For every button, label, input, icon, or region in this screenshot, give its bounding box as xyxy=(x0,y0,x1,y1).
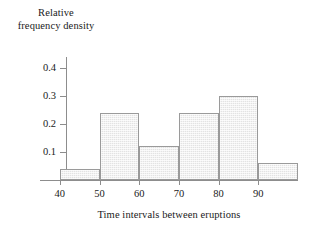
histogram-bar xyxy=(179,113,219,180)
histogram-bars xyxy=(0,0,309,238)
histogram-figure: Relative frequency density 0.10.20.30.4 … xyxy=(0,0,309,238)
x-axis-title: Time intervals between eruptions xyxy=(40,208,298,221)
histogram-bar xyxy=(100,113,140,180)
histogram-bar xyxy=(219,96,259,180)
histogram-bar xyxy=(258,163,298,180)
histogram-bar xyxy=(139,146,179,180)
histogram-bar xyxy=(60,169,100,180)
